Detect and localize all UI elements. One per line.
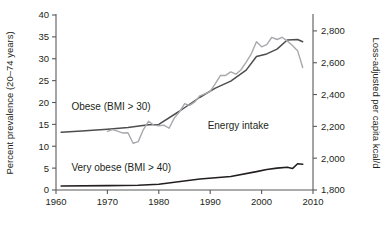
right-axis-title: Loss-adjusted per capita kcal/d [371,38,382,169]
bottom-tick-label: 1980 [148,196,169,207]
series-line [61,40,303,133]
right-tick-label: 2,800 [321,25,345,36]
left-tick-label: 35 [38,31,49,42]
bottom-tick-label: 1970 [97,196,118,207]
left-axis-title: Percent prevalence (20–74 years) [4,31,15,174]
series-label: Obese (BMI > 30) [71,101,150,112]
bottom-axis-ticks: 196019701980199020002010 [45,190,323,207]
left-tick-label: 5 [44,163,49,174]
series-label: Energy intake [208,120,270,131]
series-label: Very obese (BMI > 40) [71,162,171,173]
left-axis-ticks: 0510152025303540 [38,9,56,195]
right-axis-ticks: 1,8002,0002,2002,4002,6002,800 [313,25,345,195]
right-tick-label: 2,600 [321,57,345,68]
right-tick-label: 2,000 [321,153,345,164]
series-line [107,37,302,143]
left-tick-label: 30 [38,53,49,64]
bottom-tick-label: 1990 [200,196,221,207]
chart-canvas: 0510152025303540 1,8002,0002,2002,4002,6… [0,0,384,225]
right-tick-label: 2,400 [321,89,345,100]
bottom-tick-label: 2000 [251,196,272,207]
left-tick-label: 25 [38,75,49,86]
left-tick-label: 20 [38,97,49,108]
left-tick-label: 10 [38,141,49,152]
left-tick-label: 40 [38,9,49,20]
bottom-tick-label: 2010 [302,196,323,207]
right-tick-label: 2,200 [321,121,345,132]
obesity-energy-intake-chart: 0510152025303540 1,8002,0002,2002,4002,6… [0,0,384,225]
left-tick-label: 15 [38,119,49,130]
series-label-group: Obese (BMI > 30)Energy intakeVery obese … [71,101,269,174]
bottom-tick-label: 1960 [45,196,66,207]
left-tick-label: 0 [44,184,49,195]
right-tick-label: 1,800 [321,184,345,195]
